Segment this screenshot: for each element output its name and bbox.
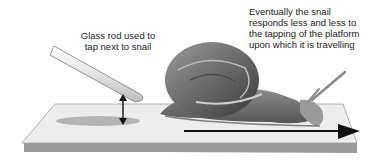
snail-annotation-line-4: upon which it is travelling: [249, 39, 378, 50]
rod-annotation-line-1: Glass rod used to: [78, 30, 158, 41]
glass-rod: [50, 46, 143, 102]
rod-annotation-line-2: tap next to snail: [78, 41, 158, 52]
snail-annotation-line-3: the tapping of the platform: [249, 28, 378, 39]
rod-annotation: Glass rod used to tap next to snail: [78, 30, 158, 52]
platform-side-right: [167, 143, 357, 153]
snail: [160, 42, 345, 126]
platform-side: [24, 143, 167, 152]
tap-spot: [56, 116, 140, 126]
snail-annotation-line-2: responds less and less to: [249, 17, 378, 28]
snail-annotation-line-1: Eventually the snail: [249, 6, 378, 17]
snail-annotation: Eventually the snail responds less and l…: [249, 6, 378, 50]
